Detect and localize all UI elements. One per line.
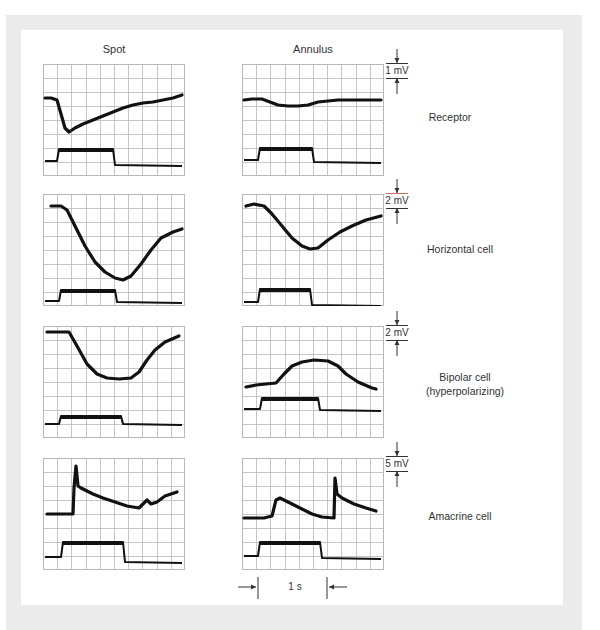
scale-label: 5 mV [385,458,409,469]
oscilloscope-grid [43,326,185,438]
scale-marker-receptor: 1 mV [385,38,409,98]
scale-arrows-icon [385,178,409,238]
row-label-line: Horizontal cell [405,242,515,256]
scope-receptor-annulus [242,64,384,176]
scale-marker-amacrine: 5 mV [385,441,409,501]
scale-arrows-icon [385,441,409,501]
row-label-bipolar-cell: Bipolar cell (hyperpolarizing) [405,370,525,398]
row-label-horizontal-cell: Horizontal cell [405,242,515,256]
oscilloscope-grid [43,458,185,570]
scope-receptor-spot [43,64,185,176]
oscilloscope-grid [43,64,185,176]
column-title-annulus: Annulus [242,43,384,55]
scope-horizontal-annulus [242,194,384,306]
time-scale-label: 1 s [230,581,360,592]
scale-label: 1 mV [385,65,409,76]
row-label-line: Receptor [395,110,505,124]
row-label-amacrine-cell: Amacrine cell [405,509,515,523]
scale-arrows-icon [385,310,409,370]
oscilloscope-grid [242,64,384,176]
scope-amacrine-spot [43,458,185,570]
scope-amacrine-annulus [242,458,384,570]
row-label-line: Bipolar cell [405,370,525,384]
scope-bipolar-annulus [242,326,384,438]
scope-bipolar-spot [43,326,185,438]
row-label-line: (hyperpolarizing) [405,384,525,398]
scale-label: 2 mV [385,195,409,206]
oscilloscope-grid [242,458,384,570]
time-scale-marker: 1 s [230,575,360,601]
column-title-spot: Spot [43,43,185,55]
scale-marker-bipolar: 2 mV [385,310,409,370]
row-label-line: Amacrine cell [405,509,515,523]
scale-marker-horizontal: 2 mV [385,178,409,238]
scope-horizontal-spot [43,194,185,306]
row-label-receptor: Receptor [395,110,505,124]
oscilloscope-grid [242,326,384,438]
oscilloscope-grid [43,194,185,306]
scale-label: 2 mV [385,327,409,338]
oscilloscope-grid [242,194,384,306]
